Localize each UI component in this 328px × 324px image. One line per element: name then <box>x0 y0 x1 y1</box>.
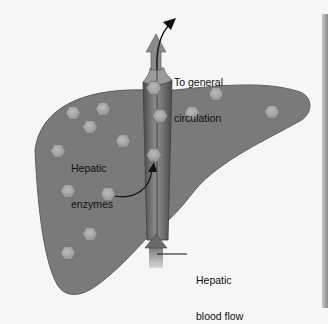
general-circulation-label: To general circulation <box>174 52 223 148</box>
outflow-arrow-gray <box>146 34 166 70</box>
hepatic-blood-flow-label: Hepatic blood flow <box>196 250 243 324</box>
hepatic-enzymes-label: Hepatic enzymes <box>71 138 113 234</box>
circulation-arrowhead <box>163 18 176 30</box>
page-edge-shadow <box>322 14 328 308</box>
